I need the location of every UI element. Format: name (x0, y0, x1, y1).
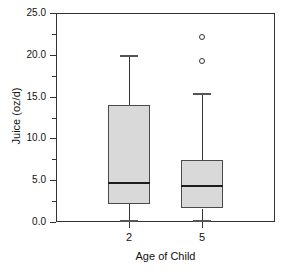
box-iqr-rect (108, 105, 150, 204)
upper-whisker-cap (193, 93, 211, 95)
y-axis-tick-label: 0.0 (0, 217, 46, 227)
lower-whisker (129, 204, 130, 220)
y-axis-tick-label: 25.0 (0, 8, 46, 18)
upper-whisker (129, 55, 130, 105)
y-axis-tick (50, 222, 56, 223)
y-axis-tick-label: 5.0 (0, 175, 46, 185)
outlier-point (199, 34, 205, 40)
y-axis-tick-label: 15.0 (0, 92, 46, 102)
upper-whisker (202, 93, 203, 160)
y-axis-title: Juice (oz/d) (10, 56, 22, 176)
plot-area (56, 13, 275, 222)
box-iqr-rect (181, 160, 223, 208)
boxplot-chart: Juice (oz/d) 0.05.010.015.020.025.0 25 A… (0, 0, 289, 272)
x-axis-tick-label: 2 (109, 231, 149, 243)
y-axis-tick-label: 10.0 (0, 133, 46, 143)
x-axis-title: Age of Child (56, 250, 275, 262)
x-axis-tick (129, 222, 130, 228)
median-line (108, 182, 150, 184)
x-axis-tick (202, 222, 203, 228)
x-axis-tick-label: 5 (182, 231, 222, 243)
upper-whisker-cap (120, 55, 138, 57)
y-axis-tick-label: 20.0 (0, 50, 46, 60)
median-line (181, 185, 223, 187)
outlier-point (199, 58, 205, 64)
